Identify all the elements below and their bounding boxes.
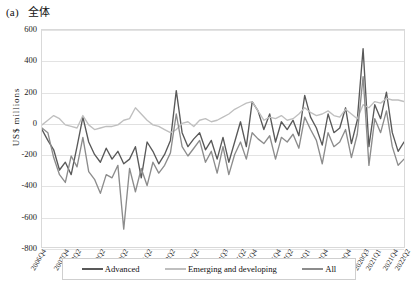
legend-label: Advanced: [105, 264, 140, 274]
series-line: [42, 98, 404, 132]
legend-swatch: [302, 268, 323, 271]
plot-area: [41, 29, 405, 248]
chart-figure: (a)全体 US$ millions 6004002000-200-400-60…: [0, 0, 412, 294]
page-title: (a)全体: [6, 3, 50, 19]
legend-swatch: [82, 268, 103, 271]
y-tick-label: 0: [7, 118, 37, 128]
y-tick-label: -800: [7, 243, 37, 253]
legend-item: All: [302, 264, 336, 274]
legend-item: Advanced: [82, 264, 140, 274]
y-tick-label: 200: [7, 87, 37, 97]
y-axis-tick-labels: 6004002000-200-400-600-800: [0, 29, 37, 248]
y-tick-label: 600: [7, 24, 37, 34]
legend-item: Emerging and developing: [165, 264, 277, 274]
panel-title-text: 全体: [28, 6, 50, 18]
y-tick-label: -200: [7, 149, 37, 159]
legend-label: All: [325, 264, 336, 274]
series-line: [42, 77, 404, 229]
panel-tag: (a): [6, 6, 19, 18]
y-tick-label: 400: [7, 55, 37, 65]
chart-legend: AdvancedEmerging and developingAll: [62, 258, 356, 280]
legend-label: Emerging and developing: [188, 264, 277, 274]
y-tick-label: -600: [7, 212, 37, 222]
series-lines: [42, 30, 404, 248]
y-tick-label: -400: [7, 180, 37, 190]
legend-swatch: [165, 268, 186, 271]
